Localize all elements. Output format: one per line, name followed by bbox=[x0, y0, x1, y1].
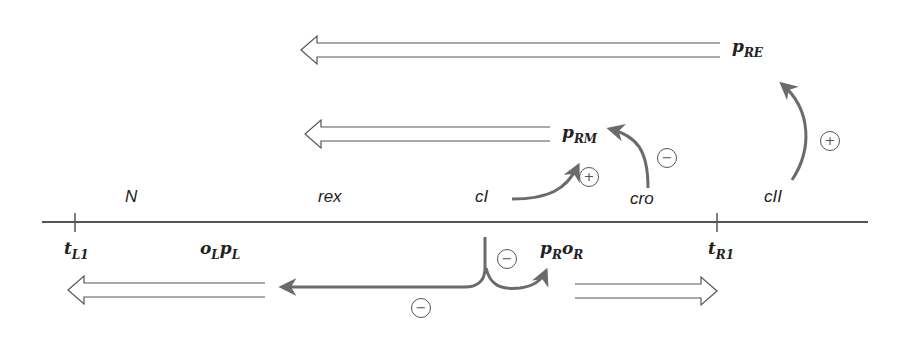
gene-label-N: N bbox=[125, 188, 137, 205]
minus-sign-cro-pRM: − bbox=[657, 148, 677, 168]
transcript-arrow-pR bbox=[575, 277, 717, 305]
plus-sign-cI-pRM: + bbox=[579, 167, 599, 187]
promoter-label-oLpL: oLpL bbox=[200, 240, 240, 257]
transcript-arrow-pRE bbox=[301, 36, 720, 64]
minus-sign-cI-pR: − bbox=[497, 249, 517, 269]
promoter-label-pRE: pRE bbox=[732, 38, 763, 55]
regulation-arrow-cI-to-pRM bbox=[512, 166, 578, 199]
regulation-arrow-cI-to-pR bbox=[486, 268, 546, 288]
diagram-canvas bbox=[0, 0, 903, 338]
terminator-label-tL1: tL1 bbox=[64, 240, 89, 257]
regulation-arrow-cI-to-pL bbox=[282, 237, 485, 287]
dna-line bbox=[42, 213, 868, 232]
gene-label-cII: cII bbox=[764, 188, 782, 205]
promoter-label-pRoR: pRoR bbox=[540, 240, 583, 257]
plus-sign-cII-pRE: + bbox=[820, 131, 840, 151]
gene-label-rex: rex bbox=[318, 188, 342, 205]
gene-label-cro: cro bbox=[630, 190, 654, 207]
terminator-label-tR1: tR1 bbox=[708, 240, 734, 257]
regulation-arrow-cro-to-pRM bbox=[610, 129, 648, 188]
minus-sign-cI-pL: − bbox=[411, 298, 431, 318]
regulation-arrow-cII-to-pRE bbox=[782, 84, 806, 180]
transcript-arrow-pRM bbox=[305, 120, 550, 148]
promoter-label-pRM: pRM bbox=[562, 124, 597, 141]
gene-label-cI: cI bbox=[475, 188, 488, 205]
transcript-arrow-pL bbox=[68, 276, 265, 304]
